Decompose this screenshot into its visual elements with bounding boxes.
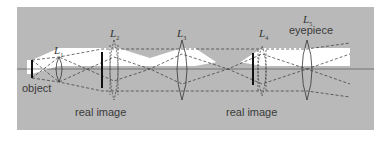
lens-label-L1: L1	[54, 44, 63, 58]
eyepiece-label: eyepiece	[289, 24, 333, 36]
real-image-label-2: real image	[226, 106, 277, 118]
object-label: object	[22, 82, 51, 94]
optical-diagram	[0, 0, 384, 143]
lens-label-L3: L3	[177, 27, 186, 41]
real-image-label-1: real image	[75, 106, 126, 118]
lens-label-L2: L2	[110, 27, 119, 41]
lens-label-L4: L4	[259, 27, 268, 41]
diagram-panel-lower	[17, 65, 374, 130]
